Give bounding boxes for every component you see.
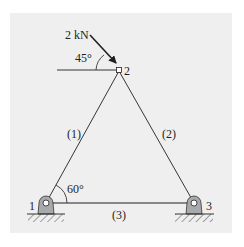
angle-60-label: 60° — [67, 182, 84, 196]
node-2-joint — [117, 68, 122, 73]
member-3-label: (3) — [112, 208, 126, 222]
load-magnitude-label: 2 kN — [65, 28, 89, 42]
node-3-label: 3 — [206, 199, 212, 213]
load-angle-label: 45° — [75, 51, 92, 65]
member-2-label: (2) — [162, 127, 176, 141]
angle-arc-45 — [96, 55, 104, 70]
angle-arc-60 — [56, 185, 67, 203]
node-1-pin — [43, 200, 49, 206]
member-2 — [119, 71, 194, 203]
truss-diagram: 2 kN 45° 2 (1) (2) 60° 1 3 (3) — [0, 0, 244, 247]
node-2-label: 2 — [124, 64, 130, 78]
node-1-label: 1 — [29, 199, 35, 213]
node-3-pin — [191, 200, 197, 206]
member-1-label: (1) — [67, 127, 81, 141]
force-arrow — [90, 35, 116, 63]
